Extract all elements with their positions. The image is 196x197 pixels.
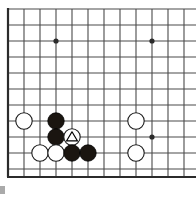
- go-board[interactable]: [0, 0, 196, 197]
- stone-black[interactable]: [48, 113, 64, 129]
- star-point-upper-left: [53, 38, 58, 43]
- stone-white[interactable]: [16, 113, 32, 129]
- go-diagram-root: [0, 0, 196, 197]
- stone-black[interactable]: [64, 145, 80, 161]
- white-stone-disc: [48, 145, 64, 161]
- star-point-lower-right: [149, 134, 154, 139]
- black-stone-disc: [48, 129, 64, 145]
- corner-scan-artifact: [0, 186, 5, 194]
- white-stone-disc: [16, 113, 32, 129]
- black-stone-disc: [80, 145, 96, 161]
- stone-white-marked[interactable]: [64, 129, 80, 145]
- white-stone-disc: [128, 113, 144, 129]
- black-stone-disc: [64, 145, 80, 161]
- stone-white[interactable]: [128, 113, 144, 129]
- stone-white[interactable]: [32, 145, 48, 161]
- black-stone-disc: [48, 113, 64, 129]
- stone-black[interactable]: [48, 129, 64, 145]
- stone-white[interactable]: [48, 145, 64, 161]
- white-stone-disc: [32, 145, 48, 161]
- white-stone-disc: [128, 145, 144, 161]
- star-point-upper-right: [149, 38, 154, 43]
- stone-white[interactable]: [128, 145, 144, 161]
- stone-black[interactable]: [80, 145, 96, 161]
